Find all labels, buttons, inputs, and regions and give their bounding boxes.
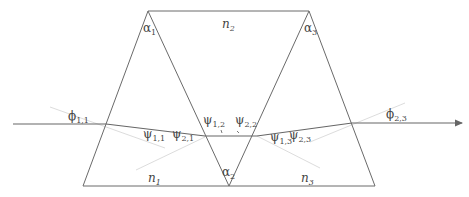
label-psi21: ψ2,1	[172, 127, 194, 143]
prism1-outer-face	[83, 11, 148, 186]
label-n2: n2	[222, 17, 235, 33]
label-psi12: ψ1,2	[203, 113, 225, 129]
prism1-inner-face	[148, 11, 229, 186]
label-alpha3: α3	[304, 21, 317, 37]
label-phi23: ϕ2,3	[386, 107, 407, 123]
label-psi22: ψ2,2	[235, 113, 257, 129]
label-n1: n1	[148, 171, 161, 187]
normal-line-2a	[136, 137, 205, 170]
prism3-outer-face	[309, 11, 375, 186]
prism-diagram: n2 n1 n3 α1 α2 α3 ϕ1,1 ψ1,1 ψ2,1 ψ1,2 ψ2…	[0, 0, 469, 197]
label-n3: n3	[301, 171, 314, 187]
label-phi11: ϕ1,1	[68, 109, 89, 125]
angle-tick-psi22	[237, 131, 239, 133]
label-alpha2: α2	[222, 165, 235, 181]
prism3-inner-face	[229, 11, 309, 186]
angle-tick-psi12	[221, 130, 222, 133]
